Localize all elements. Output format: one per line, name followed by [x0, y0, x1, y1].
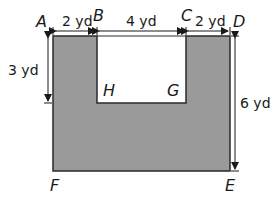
point-label-g: G	[167, 81, 179, 100]
dimension-label-3yd: 3 yd	[8, 62, 39, 78]
point-label-h: H	[103, 81, 115, 100]
point-label-a: A	[35, 12, 47, 31]
point-label-f: F	[50, 176, 60, 195]
point-label-d: D	[233, 12, 245, 31]
point-label-b: B	[93, 6, 104, 25]
dimension-label-cd: 2 yd	[195, 13, 226, 29]
dimension-label-bc: 4 yd	[126, 13, 157, 29]
point-label-c: C	[181, 6, 193, 25]
point-label-e: E	[225, 176, 236, 195]
dimension-label-ab: 2 yd	[62, 13, 93, 29]
shaded-region	[53, 36, 230, 171]
composite-figure-diagram: A B C D H G F E 2 yd 4 yd 2 yd 3 yd 6 yd	[0, 0, 278, 202]
dimension-label-6yd: 6 yd	[240, 95, 271, 111]
